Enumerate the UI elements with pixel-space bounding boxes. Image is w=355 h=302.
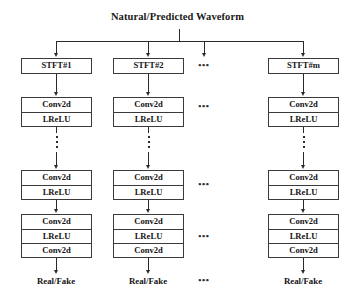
stft-box-branch-1[interactable]: STFT#1 xyxy=(21,58,92,74)
connector-arrow-2b-branch-2 xyxy=(146,165,150,169)
layer-row: LReLU xyxy=(269,112,338,126)
layer-row: LReLU xyxy=(114,229,183,243)
layer-row: LReLU xyxy=(22,229,91,243)
layer-row: Conv2d xyxy=(269,243,338,257)
stft-box-branch-2[interactable]: STFT#2 xyxy=(113,58,184,74)
drop-arrow-branch-2 xyxy=(146,53,150,57)
output-label-branch-1: Real/Fake xyxy=(6,276,106,286)
drop-arrow-branch-1 xyxy=(54,53,58,57)
layer-row: Conv2d xyxy=(22,98,91,112)
distribution-bar xyxy=(56,41,304,42)
connector-stft-to-block-top-branch-1 xyxy=(56,74,57,93)
root-label: Natural/Predicted Waveform xyxy=(0,11,355,22)
conv-block-mid-branch-m[interactable]: Conv2d LReLU xyxy=(268,170,339,200)
connector-stft-to-block-top-branch-m xyxy=(303,74,304,93)
connector-arrow-1a-branch-1 xyxy=(54,92,58,96)
layer-row: LReLU xyxy=(114,185,183,199)
vertical-ellipsis-branch-1 xyxy=(55,136,58,151)
conv-block-bottom-branch-m[interactable]: Conv2d LReLU Conv2d xyxy=(268,214,339,258)
connector-stft-to-block-top-branch-2 xyxy=(148,74,149,93)
connector-arrow-2a-branch-2 xyxy=(146,92,150,96)
connector-arrow-1c-branch-1 xyxy=(54,209,58,213)
conv-block-bottom-branch-2[interactable]: Conv2d LReLU Conv2d xyxy=(113,214,184,258)
connector-arrow-1b-branch-1 xyxy=(54,165,58,169)
layer-row: Conv2d xyxy=(22,215,91,229)
vertical-ellipsis-branch-2 xyxy=(147,136,150,151)
output-label-branch-m: Real/Fake xyxy=(253,276,353,286)
conv-block-mid-branch-2[interactable]: Conv2d LReLU xyxy=(113,170,184,200)
layer-row: Conv2d xyxy=(114,215,183,229)
layer-row: Conv2d xyxy=(269,215,338,229)
connector-block-top-to-vdots-branch-m xyxy=(303,127,304,133)
conv-block-bottom-branch-1[interactable]: Conv2d LReLU Conv2d xyxy=(21,214,92,258)
block-bottom-ellipsis-branch-ellipsis: ••• xyxy=(184,233,224,239)
connector-arrow-ma-branch-m xyxy=(301,92,305,96)
layer-row: LReLU xyxy=(22,185,91,199)
connector-vdots-to-block-mid-branch-1 xyxy=(56,152,57,165)
connector-arrow-2c-branch-2 xyxy=(146,209,150,213)
drop-arrow-branch-ellipsis xyxy=(202,53,206,57)
connector-block-top-to-vdots-branch-1 xyxy=(56,127,57,133)
conv-block-mid-branch-1[interactable]: Conv2d LReLU xyxy=(21,170,92,200)
output-label-branch-2: Real/Fake xyxy=(98,276,198,286)
stft-label-branch-m: STFT#m xyxy=(269,59,338,73)
layer-row: LReLU xyxy=(114,112,183,126)
connector-arrow-mc-branch-m xyxy=(301,209,305,213)
stft-ellipsis-branch-ellipsis: ••• xyxy=(184,62,224,68)
connector-arrow-2d-branch-2 xyxy=(146,270,150,274)
connector-block-top-to-vdots-branch-2 xyxy=(148,127,149,133)
layer-row: Conv2d xyxy=(269,171,338,185)
drop-arrow-branch-m xyxy=(301,53,305,57)
conv-block-top-branch-1[interactable]: Conv2d LReLU xyxy=(21,97,92,127)
output-ellipsis-branch-ellipsis: ••• xyxy=(184,277,224,283)
diagram-canvas: Natural/Predicted Waveform STFT#1 Conv2d… xyxy=(0,0,355,302)
stft-box-branch-m[interactable]: STFT#m xyxy=(268,58,339,74)
layer-row: Conv2d xyxy=(114,171,183,185)
connector-arrow-1d-branch-1 xyxy=(54,270,58,274)
root-stem-line xyxy=(179,29,180,41)
layer-row: Conv2d xyxy=(114,243,183,257)
stft-label-branch-1: STFT#1 xyxy=(22,59,91,73)
connector-vdots-to-block-mid-branch-m xyxy=(303,152,304,165)
connector-vdots-to-block-mid-branch-2 xyxy=(148,152,149,165)
layer-row: Conv2d xyxy=(269,98,338,112)
layer-row: LReLU xyxy=(22,112,91,126)
layer-row: Conv2d xyxy=(22,171,91,185)
vertical-ellipsis-branch-m xyxy=(302,136,305,151)
block-mid-ellipsis-branch-ellipsis: ••• xyxy=(184,181,224,187)
conv-block-top-branch-2[interactable]: Conv2d LReLU xyxy=(113,97,184,127)
layer-row: LReLU xyxy=(269,229,338,243)
layer-row: Conv2d xyxy=(114,98,183,112)
connector-arrow-md-branch-m xyxy=(301,270,305,274)
stft-label-branch-2: STFT#2 xyxy=(114,59,183,73)
connector-arrow-mb-branch-m xyxy=(301,165,305,169)
layer-row: Conv2d xyxy=(22,243,91,257)
layer-row: LReLU xyxy=(269,185,338,199)
conv-block-top-branch-m[interactable]: Conv2d LReLU xyxy=(268,97,339,127)
block-top-ellipsis-branch-ellipsis: ••• xyxy=(184,103,224,109)
